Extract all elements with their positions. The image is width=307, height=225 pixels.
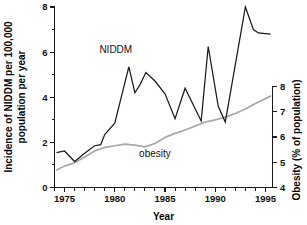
chart-figure: 02468 19751980198519901995 45678 NIDDM o… xyxy=(0,0,307,225)
right-tick-label: 5 xyxy=(280,157,286,168)
x-tick-label: 1975 xyxy=(54,193,76,204)
y-axis-title-line1: Incidence of NIDDM per 100,000 xyxy=(3,21,14,173)
left-tick-label: 4 xyxy=(42,92,48,103)
y-axis-right-title: Obesity (% of population) xyxy=(291,79,302,200)
left-tick-label: 2 xyxy=(42,137,47,148)
right-tick-label: 4 xyxy=(280,182,286,193)
right-tick-label: 8 xyxy=(280,81,285,92)
obesity-series-label: obesity xyxy=(139,148,171,159)
x-axis-title: Year xyxy=(153,211,174,222)
right-tick-label: 6 xyxy=(280,131,285,142)
x-tick-label: 1995 xyxy=(255,193,277,204)
y-axis-title-line2: population per year xyxy=(16,50,27,143)
niddm-series-label: NIDDM xyxy=(99,44,132,55)
x-tick-label: 1990 xyxy=(205,193,226,204)
left-tick-label: 6 xyxy=(42,47,47,58)
left-tick-label: 8 xyxy=(42,1,47,12)
x-tick-label: 1980 xyxy=(104,193,125,204)
right-tick-label: 7 xyxy=(280,106,285,117)
x-tick-label: 1985 xyxy=(154,193,176,204)
dual-axis-line-chart: 02468 19751980198519901995 45678 NIDDM o… xyxy=(0,0,307,225)
left-tick-label: 0 xyxy=(42,182,47,193)
